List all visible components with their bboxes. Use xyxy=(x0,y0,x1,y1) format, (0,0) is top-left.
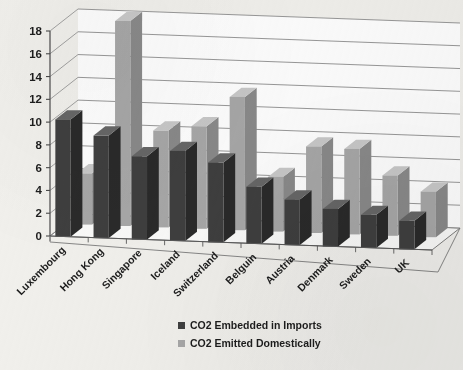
y-tick-label: 8 xyxy=(36,139,43,151)
y-tick-label: 10 xyxy=(29,116,42,128)
bar-imports xyxy=(323,200,350,247)
bar-imports xyxy=(132,147,159,239)
bar-imports xyxy=(170,142,197,241)
y-tick-label: 16 xyxy=(29,48,42,60)
chart-container: 024681012141618 LuxembourgHong KongSinga… xyxy=(0,0,463,370)
legend-swatch xyxy=(178,340,185,347)
bar-imports xyxy=(94,126,121,238)
y-tick-label: 4 xyxy=(36,184,43,196)
bar-imports xyxy=(208,153,235,242)
y-tick-label: 14 xyxy=(29,71,42,83)
legend-label: CO2 Emitted Domestically xyxy=(190,337,321,349)
legend-swatch xyxy=(178,322,185,329)
bar-imports xyxy=(55,110,82,237)
bar-imports xyxy=(285,190,312,245)
y-tick-label: 0 xyxy=(36,230,42,242)
y-tick-label: 12 xyxy=(29,93,42,105)
y-tick-label: 2 xyxy=(36,207,42,219)
legend-label: CO2 Embedded in Imports xyxy=(190,319,322,331)
y-tick-label: 6 xyxy=(36,162,42,174)
bar-imports xyxy=(246,178,273,244)
y-tick-label: 18 xyxy=(29,25,42,37)
bar-imports xyxy=(361,206,388,248)
bar-chart-3d: 024681012141618 LuxembourgHong KongSinga… xyxy=(0,0,463,370)
